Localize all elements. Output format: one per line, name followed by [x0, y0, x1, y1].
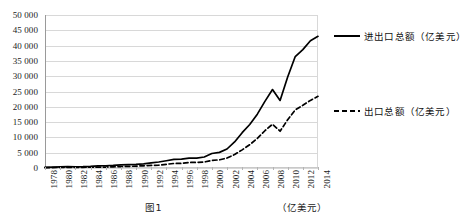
x-axis-tick	[136, 167, 137, 170]
x-axis-tick	[257, 167, 258, 170]
legend-line-solid-icon	[334, 31, 360, 41]
x-axis-tick	[212, 167, 213, 170]
series-line-import-export-total	[45, 36, 318, 167]
legend-item-import-export-total: 进出口总额（亿美元）	[334, 29, 466, 43]
x-axis-labels: 1978198019821984198619881990199219941996…	[45, 170, 318, 200]
legend-line-dashed-icon	[334, 106, 360, 116]
x-axis-tick-label: 2012	[306, 170, 316, 188]
x-axis-tick	[303, 167, 304, 170]
x-axis-tick-label: 1990	[140, 170, 150, 188]
y-axis-tick-label: 25 000	[13, 87, 38, 97]
x-axis-tick-label: 1994	[170, 170, 180, 188]
x-axis-tick	[60, 167, 61, 170]
x-axis-tick	[45, 167, 46, 170]
y-axis-tick-label: 35 000	[13, 56, 38, 66]
x-axis-tick	[197, 167, 198, 170]
figure-caption: 图1 （亿美元）	[0, 200, 472, 212]
y-axis-tick-label: 15 000	[13, 117, 38, 127]
x-axis-tick-label: 1992	[155, 170, 165, 188]
x-axis-tick-label: 2004	[246, 170, 256, 188]
x-axis-tick-label: 1996	[185, 170, 195, 188]
y-axis-tick-label: 45 000	[13, 25, 38, 35]
series-line-export-total	[45, 96, 318, 167]
x-axis-tick-label: 1984	[94, 170, 104, 188]
series-layer	[45, 15, 318, 168]
x-axis-tick	[121, 167, 122, 170]
x-axis-tick	[182, 167, 183, 170]
x-axis-tick	[75, 167, 76, 170]
x-axis-tick	[91, 167, 92, 170]
x-axis-tick	[166, 167, 167, 170]
x-axis-tick-label: 2000	[215, 170, 225, 188]
x-axis-tick	[273, 167, 274, 170]
x-axis-tick	[151, 167, 152, 170]
legend-label-export-total: 出口总额（亿美元）	[364, 104, 456, 118]
x-axis-tick-label: 2010	[291, 170, 301, 188]
x-axis-tick-label: 2014	[322, 170, 332, 188]
x-axis-tick	[106, 167, 107, 170]
x-axis-tick-label: 1998	[200, 170, 210, 188]
y-axis-tick-label: 20 000	[13, 102, 38, 112]
x-axis-tick-label: 1982	[79, 170, 89, 188]
y-axis-tick-label: 10 000	[13, 132, 38, 142]
x-axis-tick	[318, 167, 319, 170]
x-axis-tick	[242, 167, 243, 170]
x-axis-tick	[227, 167, 228, 170]
legend-item-export-total: 出口总额（亿美元）	[334, 104, 456, 118]
x-axis-tick-label: 1986	[109, 170, 119, 188]
plot-area	[45, 15, 318, 168]
x-axis-tick	[288, 167, 289, 170]
y-axis-labels: 05 00010 00015 00020 00025 00030 00035 0…	[0, 15, 42, 168]
y-axis-tick-label: 50 000	[13, 10, 38, 20]
y-axis-tick-label: 5 000	[17, 148, 38, 158]
x-axis-tick-label: 2006	[261, 170, 271, 188]
chart-figure: 05 00010 00015 00020 00025 00030 00035 0…	[0, 0, 472, 212]
x-axis-tick-label: 1988	[124, 170, 134, 188]
x-axis-tick-label: 1978	[49, 170, 59, 188]
x-axis-tick-label: 2002	[231, 170, 241, 188]
y-axis-tick-label: 0	[33, 163, 38, 173]
x-axis-tick-label: 1980	[64, 170, 74, 188]
x-axis-tick-label: 2008	[276, 170, 286, 188]
y-axis-tick-label: 30 000	[13, 71, 38, 81]
y-axis-tick-label: 40 000	[13, 41, 38, 51]
legend-label-import-export-total: 进出口总额（亿美元）	[364, 29, 466, 43]
